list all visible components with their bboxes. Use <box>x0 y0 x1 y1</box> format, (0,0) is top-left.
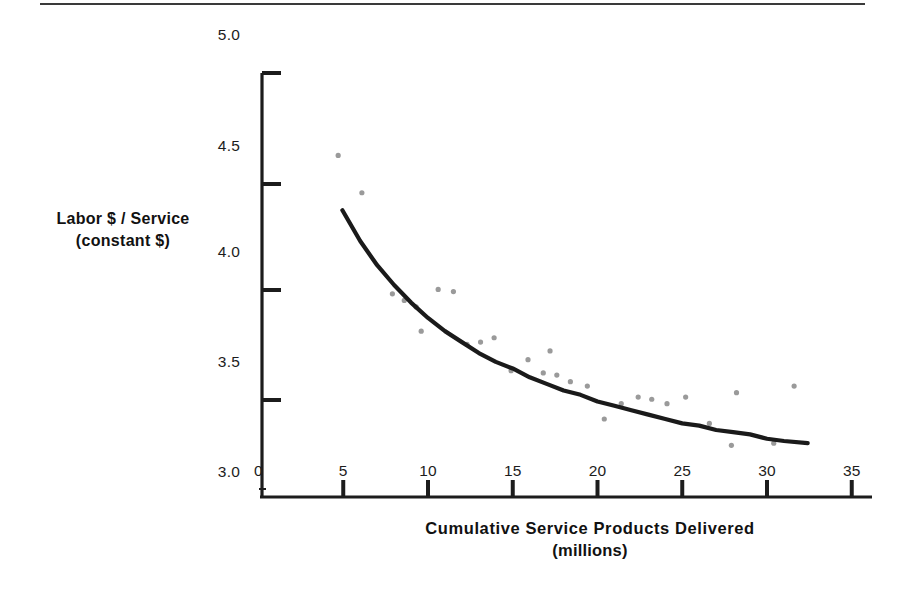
scatter-point <box>525 357 530 362</box>
x-axis-tick-label: 30 <box>737 462 797 480</box>
x-axis-tick-label: 20 <box>568 462 628 480</box>
scatter-point <box>359 190 364 195</box>
y-axis-title: Labor $ / Service (constant $) <box>18 208 228 251</box>
scatter-point <box>547 348 552 353</box>
scatter-point <box>585 383 590 388</box>
y-axis-tick-label: 4.5 <box>188 137 240 155</box>
scatter-point <box>792 383 797 388</box>
chart-page: 5.04.54.03.53.0 05101520253035 Labor $ /… <box>0 0 905 595</box>
x-axis-ticks <box>343 480 852 497</box>
x-axis-tick-label: 35 <box>822 462 882 480</box>
fitted-curve <box>342 210 807 443</box>
x-axis-tick-label: 25 <box>652 462 712 480</box>
scatter-point <box>683 394 688 399</box>
scatter-point <box>541 370 546 375</box>
scatter-point <box>568 379 573 384</box>
x-axis-tick-label: 15 <box>483 462 543 480</box>
scatter-point <box>649 397 654 402</box>
scatter-point <box>419 329 424 334</box>
x-axis-tick-label: 0 <box>229 462 289 480</box>
y-axis-title-line2: (constant $) <box>76 232 170 249</box>
scatter-point <box>451 289 456 294</box>
y-axis-title-line1: Labor $ / Service <box>56 210 189 227</box>
scatter-point <box>478 340 483 345</box>
scatter-point <box>664 401 669 406</box>
scatter-point <box>436 287 441 292</box>
chart-canvas <box>0 0 905 595</box>
scatter-point <box>734 390 739 395</box>
scatter-point <box>602 416 607 421</box>
scatter-point <box>390 291 395 296</box>
y-axis-tick-label: 5.0 <box>188 26 240 44</box>
scatter-point <box>336 153 341 158</box>
x-axis-title: Cumulative Service Products Delivered (m… <box>330 518 850 562</box>
scatter-point <box>729 443 734 448</box>
x-axis-title-line2: (millions) <box>330 540 850 562</box>
scatter-point <box>636 394 641 399</box>
x-axis-tick-label: 5 <box>313 462 373 480</box>
y-axis-tick-label: 3.5 <box>188 353 240 371</box>
scatter-points <box>336 153 797 448</box>
scatter-point <box>707 421 712 426</box>
x-axis-tick-label: 10 <box>398 462 458 480</box>
x-axis-title-line1: Cumulative Service Products Delivered <box>425 519 754 537</box>
axis-lines <box>260 73 872 497</box>
scatter-point <box>492 335 497 340</box>
scatter-point <box>554 372 559 377</box>
